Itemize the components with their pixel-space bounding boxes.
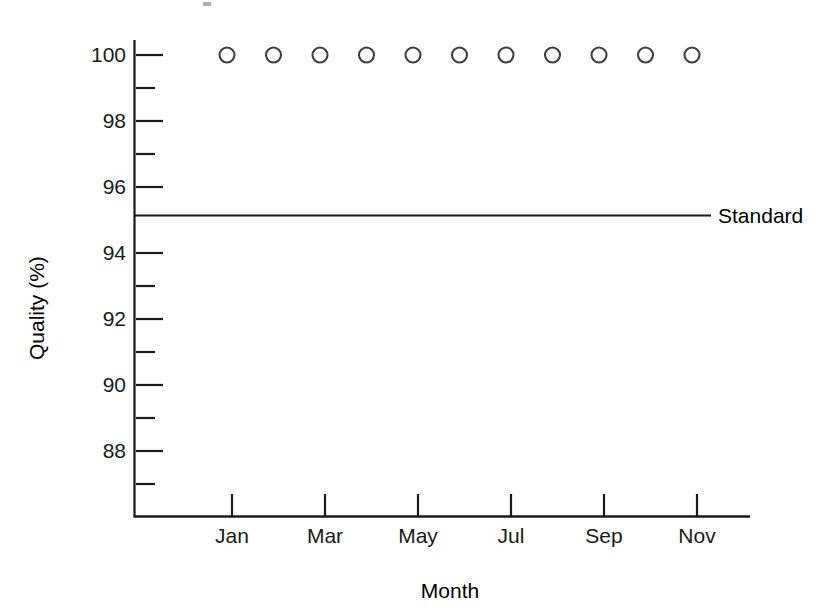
y-tick-label-96: 96 [0, 176, 126, 197]
data-point-markers [220, 48, 700, 63]
y-tick-label-100: 100 [0, 44, 126, 65]
x-tick-label-may: May [368, 525, 468, 546]
y-tick-label-92: 92 [0, 308, 126, 329]
data-point [266, 48, 281, 63]
data-point [313, 48, 328, 63]
x-tick-label-sep: Sep [554, 525, 654, 546]
data-point [545, 48, 560, 63]
data-point [592, 48, 607, 63]
x-tick-label-jul: Jul [461, 525, 561, 546]
x-tick-label-nov: Nov [647, 525, 747, 546]
y-tick-label-98: 98 [0, 110, 126, 131]
data-point [638, 48, 653, 63]
x-axis-ticks [232, 494, 697, 516]
y-tick-label-94: 94 [0, 242, 126, 263]
x-axis-title: Month [350, 580, 550, 601]
data-point [499, 48, 514, 63]
data-point [452, 48, 467, 63]
data-point [359, 48, 374, 63]
standard-line-label: Standard [718, 205, 803, 226]
y-tick-label-90: 90 [0, 374, 126, 395]
y-axis-minor-ticks [136, 88, 155, 484]
y-axis-major-ticks [136, 55, 163, 451]
axis-spines [134, 40, 751, 517]
x-tick-label-jan: Jan [182, 525, 282, 546]
chart-figure: 100 98 96 94 92 90 88 Jan Mar May Jul Se… [0, 0, 830, 614]
data-point [685, 48, 700, 63]
data-point [220, 48, 235, 63]
data-point [406, 48, 421, 63]
y-tick-label-88: 88 [0, 440, 126, 461]
y-axis-title: Quality (%) [26, 160, 47, 360]
x-tick-label-mar: Mar [275, 525, 375, 546]
